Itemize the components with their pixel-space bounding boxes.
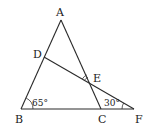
label-F: F [135,113,143,126]
angle-label-B: 65° [32,98,48,108]
segment-AB [21,20,61,109]
angle-arc-F [122,103,124,109]
segment-DF [44,57,134,109]
label-E: E [93,72,101,85]
label-B: B [15,113,23,126]
angle-label-F: 30° [104,98,120,108]
segment-AC [61,20,101,109]
label-C: C [98,113,106,126]
label-A: A [55,6,65,19]
geometry-diagram: A D E B C F 65° 30° [0,0,152,128]
label-D: D [33,48,42,61]
